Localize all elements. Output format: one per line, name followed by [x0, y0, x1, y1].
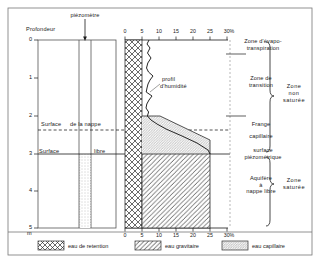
humidity-bottom-tick-label-0: 0	[124, 232, 127, 238]
zone-non-saturee-label-a: Zone	[276, 83, 312, 89]
humidity-tick-label-0: 0	[124, 28, 127, 34]
zone-saturee-label-b: saturée	[276, 184, 312, 190]
piezometre-label: piézomètre	[70, 12, 99, 18]
zone-evapotranspiration-label-a: Zone d'évapo-	[233, 38, 293, 44]
humidity-bottom-tick-label-5: 5	[141, 232, 144, 238]
humidity-bottom-tick-label-20: 20	[190, 232, 196, 238]
depth-tick-label-2: 2	[20, 112, 32, 118]
zone-transition-label-a: Zone de	[233, 75, 289, 81]
frange-capillaire-label-a: Frange	[233, 121, 289, 127]
humidity-bottom-tick-label-10: 10	[156, 232, 162, 238]
profil-humidite-label-line2: d'humidité	[160, 83, 187, 89]
zone-evapotranspiration-label-b: transpiration	[233, 45, 293, 51]
humidity-bottom-tick-label-25: 25	[207, 232, 213, 238]
piezometer-water-column	[80, 154, 91, 228]
depth-axis-unit: m	[27, 230, 32, 236]
depth-axis-title: Profondeur	[26, 26, 55, 32]
soil-column-outline	[38, 40, 116, 228]
frange-capillaire-label-b: capillaire	[233, 133, 289, 139]
humidity-bottom-tick-label-15: 15	[173, 232, 179, 238]
retention-water-band	[125, 40, 142, 228]
humidity-axis-bottom-ticks	[125, 228, 227, 232]
depth-tick-label-1: 1	[20, 74, 32, 80]
surface-libre-label-b: libre	[94, 148, 105, 154]
zone-non-saturee-label-b: non	[276, 90, 312, 96]
humidity-bottom-tick-label-30: 30%	[224, 232, 235, 238]
legend-label-capillaire: eau capillaire	[252, 243, 285, 249]
humidity-tick-label-10: 10	[156, 28, 162, 34]
surface-piezometrique-label-b: piézométrique	[233, 154, 293, 160]
humidity-tick-label-15: 15	[173, 28, 179, 34]
humidity-tick-label-20: 20	[190, 28, 196, 34]
depth-tick-label-4: 4	[20, 187, 32, 193]
humidity-tick-label-5: 5	[141, 28, 144, 34]
depth-tick-label-0: 0	[20, 36, 32, 42]
humidity-tick-label-30: 30%	[224, 28, 235, 34]
humidity-axis-top-ticks	[125, 37, 227, 41]
legend-label-retention: eau de retention	[68, 243, 108, 249]
depth-tick-label-5: 5	[20, 224, 32, 230]
zone-saturee-label-a: Zone	[276, 177, 312, 183]
zone-non-saturee-label-c: saturée	[276, 97, 312, 103]
surface-libre-label-a: Surface	[39, 148, 59, 154]
gravitational-water-band	[142, 154, 210, 228]
surface-nappe-label-b: de la nappe	[70, 121, 101, 127]
profil-humidite-label-line1: profil	[162, 76, 175, 82]
surface-piezometrique-label-a: surface	[233, 147, 293, 153]
figure-canvas: Profondeur m 0 1 2 3 4 5 piézomètre Surf…	[0, 0, 320, 263]
profile-label-leader	[150, 84, 160, 92]
depth-tick-label-3: 3	[20, 150, 32, 156]
legend-label-gravitaire: eau gravitaire	[165, 243, 199, 249]
humidity-tick-label-25: 25	[207, 28, 213, 34]
surface-nappe-label-a: Surface	[41, 121, 61, 127]
